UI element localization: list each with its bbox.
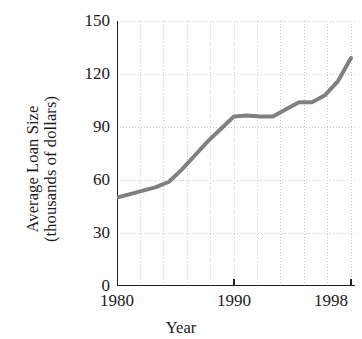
plot-area xyxy=(117,21,355,286)
y-tick-label-90: 90 xyxy=(60,117,110,137)
y-axis-tick-labels: 150 120 90 60 30 0 xyxy=(52,0,110,339)
x-tick-label-1980: 1980 xyxy=(100,291,134,311)
y-tick-label-120: 120 xyxy=(60,64,110,84)
vertical-gridlines xyxy=(140,21,351,286)
y-tick-label-60: 60 xyxy=(60,170,110,190)
y-tick-label-150: 150 xyxy=(60,11,110,31)
line-chart-figure: Average Loan Size (thousands of dollars)… xyxy=(0,0,362,339)
y-axis-title-line-1: Average Loan Size xyxy=(24,106,42,233)
x-tick-label-1990: 1990 xyxy=(217,291,251,311)
plot-svg xyxy=(117,21,359,291)
x-axis-title: Year xyxy=(0,318,362,338)
horizontal-gridlines xyxy=(117,21,355,233)
y-tick-label-30: 30 xyxy=(60,223,110,243)
data-series-line xyxy=(117,58,351,198)
axis-spines xyxy=(117,21,355,286)
x-tick-label-1998: 1998 xyxy=(314,291,348,311)
